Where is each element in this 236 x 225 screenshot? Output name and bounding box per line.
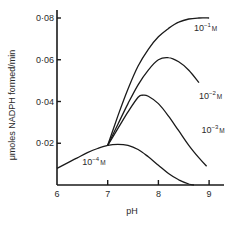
x-tick-label: 6 [54,189,59,199]
series-label: 10−3M [201,124,224,135]
y-tick-label: 0·06 [36,55,54,65]
y-tick-label: 0·08 [36,13,54,23]
series-label: 10−1M [194,22,217,33]
x-tick-label: 8 [156,189,161,199]
y-axis-label: μmoles NADPH formed/min [7,50,17,161]
series-label: 10−2M [199,90,222,101]
series-labels: 10−1M10−2M10−3M10−4M [82,22,224,168]
x-axis-label: pH [126,206,138,216]
series-curve [108,95,207,166]
ticks: 67890·020·040·060·08 [36,13,212,199]
curves [57,18,209,185]
series-curve [108,18,209,145]
series-curve [57,144,194,185]
y-tick-label: 0·02 [36,138,54,148]
x-tick-label: 7 [105,189,110,199]
series-label: 10−4M [82,156,105,167]
x-tick-label: 9 [207,189,212,199]
series-curve [108,58,199,146]
y-tick-label: 0·04 [36,97,54,107]
chart: 67890·020·040·060·08 10−1M10−2M10−3M10−4… [0,0,236,225]
